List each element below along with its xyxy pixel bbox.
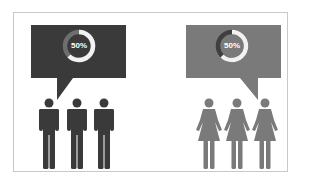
- women-speech-bubble: 50%: [186, 25, 281, 100]
- men-speech-bubble: 50%: [31, 25, 126, 100]
- female-person-icon: [224, 99, 250, 170]
- men-figures: [36, 98, 122, 170]
- women-figures: [196, 98, 282, 170]
- male-person-icon: [39, 99, 59, 170]
- male-person-icon: [67, 99, 87, 170]
- female-person-icon: [196, 99, 222, 170]
- speech-bubble-shape: [186, 25, 281, 100]
- men-percent-label: 50%: [64, 41, 94, 51]
- women-percent-label: 50%: [217, 41, 247, 51]
- female-person-icon: [252, 99, 278, 170]
- speech-bubble-shape: [31, 25, 126, 100]
- male-person-icon: [94, 99, 114, 170]
